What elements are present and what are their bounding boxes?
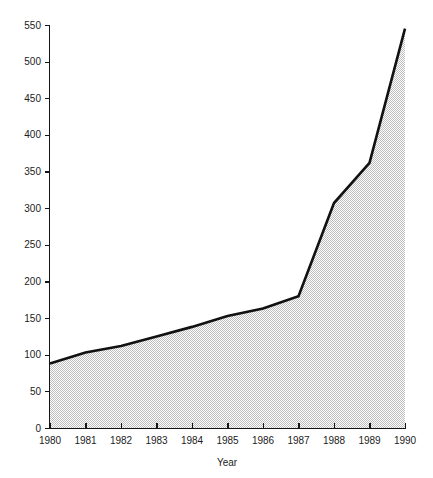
x-tick-label: 1982	[110, 435, 133, 446]
y-tick-label: 150	[24, 313, 41, 324]
y-tick-label: 250	[24, 239, 41, 250]
y-tick-label: 450	[24, 93, 41, 104]
y-tick-label: 350	[24, 166, 41, 177]
x-tick-label: 1984	[181, 435, 204, 446]
x-tick-label: 1983	[145, 435, 168, 446]
x-tick-label: 1989	[358, 435, 381, 446]
y-tick-label: 50	[30, 386, 42, 397]
x-tick-label: 1985	[216, 435, 239, 446]
area-fill	[50, 29, 405, 428]
x-tick-label: 1987	[287, 435, 310, 446]
x-tick-label: 1981	[74, 435, 97, 446]
x-tick-label: 1990	[394, 435, 417, 446]
y-tick-label: 300	[24, 203, 41, 214]
y-axis-tick-labels: 050100150200250300350400450500550	[24, 20, 41, 434]
x-tick-label: 1986	[252, 435, 275, 446]
y-tick-label: 200	[24, 276, 41, 287]
y-tick-label: 0	[35, 423, 41, 434]
y-tick-label: 400	[24, 129, 41, 140]
area-chart: 050100150200250300350400450500550 198019…	[0, 0, 433, 478]
y-tick-label: 550	[24, 20, 41, 31]
x-axis-tick-labels: 1980198119821983198419851986198719881989…	[39, 435, 417, 446]
y-tick-label: 100	[24, 349, 41, 360]
x-tick-label: 1988	[323, 435, 346, 446]
chart-canvas: 050100150200250300350400450500550 198019…	[0, 0, 433, 478]
y-tick-label: 500	[24, 56, 41, 67]
x-axis-title: Year	[217, 457, 238, 468]
x-tick-label: 1980	[39, 435, 62, 446]
